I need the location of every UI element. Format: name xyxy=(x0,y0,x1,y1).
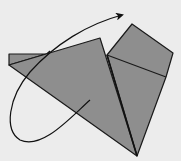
fold-step-illustration xyxy=(0,0,181,161)
origami-diagram xyxy=(0,0,181,161)
